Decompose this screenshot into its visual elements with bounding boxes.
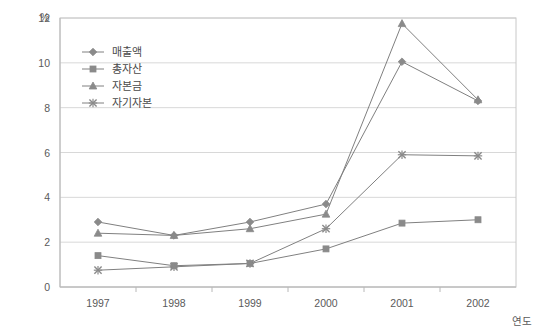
legend-square-marker xyxy=(90,66,96,72)
data-point-2-0 xyxy=(94,229,102,236)
data-point-0-0 xyxy=(94,218,102,226)
series-0 xyxy=(94,58,482,239)
data-point-3-2 xyxy=(246,259,254,267)
data-point-2-4 xyxy=(398,20,406,27)
x-tick-label-2002: 2002 xyxy=(466,297,490,309)
data-point-3-1 xyxy=(170,263,178,271)
data-point-1-4 xyxy=(399,220,405,226)
y-tick-label: 10 xyxy=(38,57,50,69)
data-point-3-0 xyxy=(94,266,102,274)
data-point-3-5 xyxy=(474,152,482,160)
data-point-0-4 xyxy=(398,58,406,66)
series-line-2 xyxy=(98,24,478,236)
series-line-3 xyxy=(98,155,478,270)
legend-label-2: 자본금 xyxy=(112,80,142,93)
legend-label-3: 자기자본 xyxy=(112,97,152,110)
y-axis-unit-label: % xyxy=(40,11,49,23)
y-axis-tick-labels: 024681012 xyxy=(38,12,50,293)
series-2 xyxy=(94,20,482,239)
y-tick-label: 8 xyxy=(44,102,50,114)
legend-item-1[interactable]: 총자산 xyxy=(82,63,142,76)
legend-item-2[interactable]: 자본금 xyxy=(82,80,142,93)
y-tick-label: 4 xyxy=(44,191,50,203)
legend-cross-marker xyxy=(89,99,97,107)
line-chart: 024681012 199719981999200020012002 매출액총자… xyxy=(0,0,540,331)
series-line-0 xyxy=(98,62,478,236)
y-tick-label: 6 xyxy=(44,147,50,159)
data-point-3-3 xyxy=(322,225,330,233)
x-tick-label-1997: 1997 xyxy=(86,297,110,309)
legend-diamond-marker xyxy=(89,48,97,56)
legend-label-0: 매출액 xyxy=(112,46,142,59)
series-1 xyxy=(95,217,481,269)
data-point-3-4 xyxy=(398,151,406,159)
data-series-group xyxy=(94,20,482,275)
x-tick-label-2001: 2001 xyxy=(390,297,414,309)
y-tick-label: 2 xyxy=(44,236,50,248)
x-tick-label-2000: 2000 xyxy=(314,297,338,309)
data-point-2-3 xyxy=(322,210,330,217)
data-point-1-3 xyxy=(323,246,329,252)
chart-canvas: 024681012 199719981999200020012002 매출액총자… xyxy=(0,0,540,331)
x-axis-tick-labels: 199719981999200020012002 xyxy=(86,297,490,309)
x-tick-label-1998: 1998 xyxy=(162,297,186,309)
data-point-1-0 xyxy=(95,253,101,259)
chart-legend: 매출액총자산자본금자기자본 xyxy=(82,46,152,110)
x-axis-name-label: 연도 xyxy=(512,315,532,327)
legend-label-1: 총자산 xyxy=(112,63,142,76)
legend-item-0[interactable]: 매출액 xyxy=(82,46,142,59)
y-tick-label: 0 xyxy=(44,281,50,293)
series-line-1 xyxy=(98,220,478,266)
x-tick-label-1999: 1999 xyxy=(238,297,262,309)
data-point-1-5 xyxy=(475,217,481,223)
